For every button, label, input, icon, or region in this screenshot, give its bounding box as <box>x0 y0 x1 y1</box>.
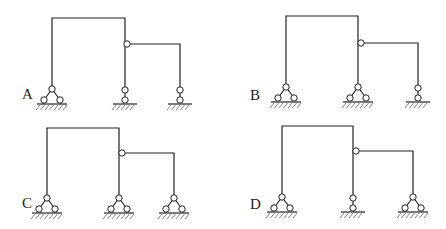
portal-frame <box>52 18 125 87</box>
ground-hatch <box>117 105 121 110</box>
pin-icon <box>410 194 416 200</box>
pin-icon <box>287 205 293 211</box>
pin-icon <box>271 205 277 211</box>
ground-hatch <box>423 103 427 108</box>
fixed-hinge-support <box>103 195 134 219</box>
ground-hatch <box>121 214 125 219</box>
ground-hatch <box>59 105 63 110</box>
diagram-canvas: ABCD <box>0 0 446 229</box>
portal-frame <box>286 16 358 84</box>
ground-hatch <box>420 213 424 218</box>
portal-frame <box>47 128 119 195</box>
ground-hatch <box>351 103 355 108</box>
link-support <box>405 85 430 108</box>
option-d[interactable]: D <box>250 126 428 218</box>
option-label: A <box>22 86 33 102</box>
pin-icon <box>57 97 63 103</box>
ground-hatch <box>411 213 415 218</box>
pin-icon <box>122 87 128 93</box>
ground-hatch <box>284 103 288 108</box>
ground-hatch <box>36 214 40 219</box>
ground-hatch <box>402 213 406 218</box>
link-support <box>340 195 365 218</box>
ground-hatch <box>270 103 274 108</box>
ground-hatch <box>45 105 49 110</box>
ground-hatch <box>279 103 283 108</box>
fixed-hinge-support <box>342 84 373 108</box>
ground-hatch <box>354 213 358 218</box>
ground-hatch <box>130 105 134 110</box>
ground-hatch <box>158 214 162 219</box>
ground-hatch <box>130 214 134 219</box>
ground-hatch <box>167 105 171 110</box>
ground-hatch <box>50 105 54 110</box>
ground-hatch <box>176 214 180 219</box>
right-beam-column <box>130 44 180 87</box>
ground-hatch <box>126 214 130 219</box>
ground-hatch <box>167 214 171 219</box>
pin-icon <box>283 84 289 90</box>
ground-hatch <box>54 214 58 219</box>
option-c[interactable]: C <box>22 128 189 219</box>
ground-hatch <box>112 214 116 219</box>
pin-icon <box>179 206 185 212</box>
ground-hatch <box>163 214 167 219</box>
frame <box>282 126 413 195</box>
frame <box>47 128 174 195</box>
ground-hatch <box>185 105 189 110</box>
frame <box>52 18 180 87</box>
fixed-hinge-support <box>266 194 297 218</box>
ground-hatch <box>266 213 270 218</box>
ground-hatch <box>176 105 180 110</box>
option-b[interactable]: B <box>250 16 430 108</box>
ground-hatch <box>360 103 364 108</box>
right-beam-column <box>359 151 413 194</box>
ground-hatch <box>49 214 53 219</box>
ground-hatch <box>415 213 419 218</box>
fixed-hinge-support <box>31 195 62 219</box>
link-support <box>167 87 192 110</box>
pin-icon <box>275 95 281 101</box>
hinge-icon <box>119 150 125 156</box>
fixed-hinge-support <box>36 86 67 110</box>
ground-hatch <box>36 105 40 110</box>
pin-icon <box>415 85 421 91</box>
ground-hatch <box>297 103 301 108</box>
ground-hatch <box>185 214 189 219</box>
fixed-hinge-support <box>397 194 428 218</box>
ground-hatch <box>406 213 410 218</box>
pin-icon <box>402 205 408 211</box>
option-label: B <box>250 87 260 103</box>
pin-icon <box>291 95 297 101</box>
pin-icon <box>355 84 361 90</box>
ground-hatch <box>293 103 297 108</box>
ground-hatch <box>369 103 373 108</box>
hinge-icon <box>358 40 364 46</box>
ground-hatch <box>397 213 401 218</box>
pin-icon <box>36 206 42 212</box>
pin-icon <box>350 205 356 211</box>
fixed-hinge-support <box>270 84 301 108</box>
option-a[interactable]: A <box>22 18 192 110</box>
ground-hatch <box>358 213 362 218</box>
ground-hatch <box>271 213 275 218</box>
ground-hatch <box>289 213 293 218</box>
pin-icon <box>52 206 58 212</box>
ground-hatch <box>275 103 279 108</box>
ground-hatch <box>58 214 62 219</box>
pin-icon <box>347 95 353 101</box>
ground-hatch <box>31 214 35 219</box>
ground-hatch <box>345 213 349 218</box>
pin-icon <box>350 195 356 201</box>
ground-hatch <box>112 105 116 110</box>
pin-icon <box>363 95 369 101</box>
ground-hatch <box>365 103 369 108</box>
ground-hatch <box>121 105 125 110</box>
fixed-hinge-support <box>158 195 189 219</box>
pin-icon <box>44 195 50 201</box>
ground-hatch <box>45 214 49 219</box>
link-support <box>112 87 137 110</box>
ground-hatch <box>342 103 346 108</box>
ground-hatch <box>347 103 351 108</box>
ground-hatch <box>340 213 344 218</box>
